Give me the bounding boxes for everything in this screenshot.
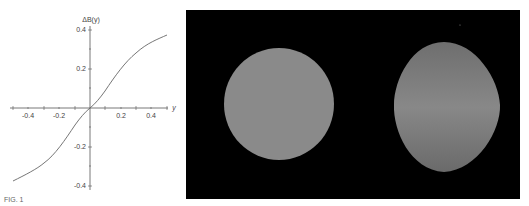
x-axis-label: y xyxy=(171,104,176,112)
sphere-shape xyxy=(224,48,334,160)
render-panel xyxy=(186,10,520,199)
x-tick-label: -0.4 xyxy=(22,112,34,119)
y-tick-label: -0.2 xyxy=(74,143,86,150)
y-tick-label: 0.4 xyxy=(76,26,86,33)
y-tick-label: -0.4 xyxy=(74,182,86,189)
render-svg xyxy=(186,10,520,199)
delta-b-plot: -0.4 -0.2 0.2 0.4 0.4 0.2 -0.2 -0.4 ΔB(y… xyxy=(0,0,180,200)
x-tick-label: 0.2 xyxy=(116,112,126,119)
y-axis-label: ΔB(y) xyxy=(82,16,100,24)
x-tick-label: 0.4 xyxy=(146,112,156,119)
figure-caption: FIG. 1 xyxy=(4,196,23,203)
y-tick-label: 0.2 xyxy=(76,65,86,72)
x-tick-label: -0.2 xyxy=(53,112,65,119)
deformed-sphere-shape xyxy=(394,42,500,172)
